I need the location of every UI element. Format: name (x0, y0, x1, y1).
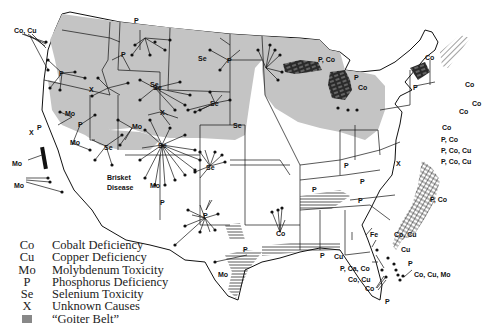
legend-code: Cu (12, 251, 42, 263)
label-ny-p: P (413, 84, 418, 91)
label-ga-fe: Fe (370, 231, 378, 238)
label-nd-p: P (227, 57, 232, 64)
label-id-x: X (89, 86, 94, 93)
label-ky-p: P (312, 186, 317, 193)
label-ca-mo1: Mo (12, 160, 22, 167)
legend-swatch-cell (12, 313, 42, 325)
map-legend: Co Cobalt Deficiency Cu Copper Deficienc… (12, 239, 168, 325)
label-mt-p: P (134, 17, 139, 24)
label-va-pcocu2: P, Co, Cu (441, 158, 471, 166)
label-mi-pco: P, Co (318, 56, 335, 64)
legend-label: Copper Deficiency (52, 251, 147, 263)
label-mi-p: P (354, 74, 359, 81)
label-fl-p: P (408, 260, 413, 267)
label-co-se: Se (158, 142, 167, 149)
label-nv-mo2: Mo (70, 139, 80, 146)
legend-row-unknown: X Unknown Causes (12, 300, 168, 312)
legend-row-goiter-belt: “Goiter Belt” (12, 313, 168, 325)
label-ca-x: X (29, 129, 34, 136)
legend-row-copper: Cu Copper Deficiency (12, 251, 168, 263)
label-ca-p: P (37, 124, 42, 131)
label-md-pco: P, Co (441, 136, 458, 144)
goiter-belt-swatch-icon (22, 315, 32, 323)
label-ms-p: P (320, 252, 325, 259)
label-disease: Disease (107, 184, 134, 191)
label-nd-se: Se (198, 55, 207, 62)
label-ks-se: Se (206, 164, 215, 171)
label-tx-p: P (203, 212, 208, 219)
label-mi-co: Co (358, 84, 367, 91)
goiter-belt-ne-diagonal (440, 35, 470, 68)
legend-label: “Goiter Belt” (52, 313, 119, 325)
label-id-p: P (121, 51, 126, 58)
label-nv-p: P (78, 121, 83, 128)
label-tx-mo: Mo (218, 271, 228, 278)
label-ut-se: Se (104, 144, 113, 151)
label-sd-se: Se (210, 100, 219, 107)
label-wy-se: Se (153, 84, 162, 91)
label-oh-p: P (360, 178, 365, 185)
label-fl-cocumo: Co, Cu, Mo (414, 271, 451, 279)
label-nj-co: Co (442, 124, 451, 131)
label-fl-co: Co (365, 285, 374, 292)
label-ut-mo: Mo (132, 123, 142, 130)
label-tx-p2: P (243, 246, 248, 253)
label-ma-co: Co (472, 100, 481, 107)
label-fl-pcaco: P, Ca, Co (340, 265, 370, 273)
label-wy-x: X (160, 109, 165, 116)
label-fl-cocu2: Co, Cu (348, 276, 371, 284)
label-nc-pco: P, Co (430, 196, 447, 204)
label-nm-p: P (160, 199, 165, 206)
label-wa-coast: Co, Cu (14, 27, 37, 35)
label-tn-p2: P (358, 197, 363, 204)
legend-label: Unknown Causes (52, 300, 140, 312)
label-fl-cocu: Co, Cu (394, 231, 417, 239)
label-al-cu: Cu (334, 253, 343, 260)
label-nh-co: Co (465, 81, 474, 88)
label-ri-co: Co (459, 108, 468, 115)
label-va-x: X (396, 160, 401, 167)
label-fl-cu: Cu (401, 246, 410, 253)
label-la-co: Co (276, 230, 285, 237)
legend-code: X (12, 300, 42, 312)
label-fl-p2: P (385, 298, 390, 305)
label-ny-co: Co (425, 54, 434, 61)
label-ca-mo2: Mo (14, 182, 24, 189)
label-va-pcocu1: P, Co, Cu (441, 147, 471, 155)
label-ne-se: Se (233, 122, 242, 129)
label-nv-mo: Mo (65, 110, 75, 117)
label-tn-p1: P (344, 162, 349, 169)
label-or-p: P (59, 70, 64, 77)
label-az-mo: Mo (150, 182, 160, 189)
label-brisket: Brisket (107, 174, 131, 181)
